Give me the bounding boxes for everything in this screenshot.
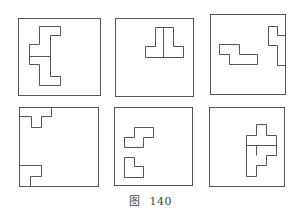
caption-prefix: 图 bbox=[129, 195, 141, 208]
cut-shape bbox=[220, 45, 258, 65]
caption-number: 140 bbox=[150, 195, 173, 208]
figure-canvas bbox=[0, 0, 301, 215]
panel-frame bbox=[115, 108, 193, 186]
cut-shape bbox=[269, 27, 286, 66]
panel-1 bbox=[19, 19, 101, 96]
cut-shape bbox=[20, 108, 52, 128]
panel-3 bbox=[211, 15, 286, 95]
cut-shape bbox=[146, 28, 184, 58]
cut-shape bbox=[247, 125, 277, 177]
cut-shape bbox=[125, 128, 154, 148]
panel-2 bbox=[116, 19, 194, 97]
panel-6 bbox=[210, 108, 285, 187]
cut-shape bbox=[20, 166, 42, 187]
panel-4 bbox=[20, 108, 99, 187]
cut-shape bbox=[125, 158, 144, 178]
panel-5 bbox=[115, 108, 193, 186]
figure-caption: 图140 bbox=[0, 192, 301, 208]
